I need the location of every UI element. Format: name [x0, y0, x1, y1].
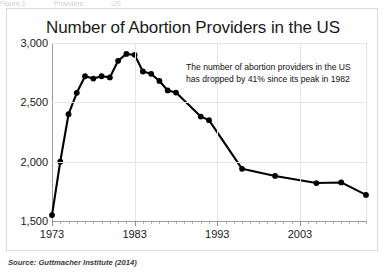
data-point-marker: [82, 73, 88, 79]
x-axis-minor-tick: [143, 221, 144, 224]
cropped-text-0: Figure 1: [0, 0, 26, 7]
gridline-vertical: [135, 43, 136, 221]
x-axis-tick-label: 2003: [288, 228, 312, 240]
data-point-marker: [115, 58, 121, 64]
x-axis-major-tick: [300, 221, 301, 226]
x-axis-minor-tick: [316, 221, 317, 224]
x-axis-minor-tick: [176, 221, 177, 224]
y-axis-tick-label: 2,500: [20, 96, 48, 108]
data-point-marker: [338, 180, 344, 186]
x-axis-minor-tick: [102, 221, 103, 224]
x-axis-minor-tick: [168, 221, 169, 224]
x-axis-minor-tick: [184, 221, 185, 224]
x-axis-minor-tick: [308, 221, 309, 224]
data-point-marker: [107, 75, 113, 81]
data-point-marker: [66, 111, 72, 117]
data-point-marker: [74, 90, 80, 96]
y-axis-tick-label: 1,500: [20, 215, 48, 227]
y-axis-tick-label: 3,000: [20, 37, 48, 49]
x-axis-minor-tick: [201, 221, 202, 224]
x-axis-minor-tick: [151, 221, 152, 224]
x-axis-minor-tick: [226, 221, 227, 224]
x-axis-minor-tick: [85, 221, 86, 224]
gridline-horizontal: [52, 102, 366, 103]
data-point-marker: [272, 173, 278, 179]
data-point-marker: [314, 180, 320, 186]
chart-figure: Figure 1 Providers US Number of Abortion…: [0, 0, 384, 280]
x-axis-tick-label: 1983: [122, 228, 146, 240]
x-axis-minor-tick: [69, 221, 70, 224]
x-axis-tick-label: 1993: [205, 228, 229, 240]
chart-annotation: The number of abortion providers in the …: [186, 62, 381, 85]
x-axis-minor-tick: [283, 221, 284, 224]
x-axis-minor-tick: [358, 221, 359, 224]
data-point-marker: [99, 73, 105, 79]
x-axis-minor-tick: [333, 221, 334, 224]
x-axis-minor-tick: [192, 221, 193, 224]
data-point-marker: [140, 69, 146, 75]
x-axis-major-tick: [217, 221, 218, 226]
x-axis-minor-tick: [234, 221, 235, 224]
annotation-line-1: The number of abortion providers in the …: [186, 62, 381, 74]
x-axis-minor-tick: [341, 221, 342, 224]
y-axis-tick-label: 2,000: [20, 156, 48, 168]
data-point-marker: [148, 71, 154, 77]
x-axis-minor-tick: [110, 221, 111, 224]
x-axis-tick-label: 1973: [40, 228, 64, 240]
data-point-marker: [157, 78, 163, 84]
data-point-marker: [198, 114, 204, 120]
data-point-marker: [123, 51, 129, 57]
gridline-horizontal: [52, 43, 366, 44]
x-axis-labels: 1973198319932003: [52, 228, 366, 244]
x-axis-minor-tick: [77, 221, 78, 224]
source-note: Source: Guttmacher Institute (2014): [8, 258, 137, 267]
gridline-horizontal: [52, 162, 366, 163]
x-axis-minor-tick: [209, 221, 210, 224]
x-axis-minor-tick: [349, 221, 350, 224]
data-point-marker: [206, 117, 212, 123]
data-point-marker: [90, 76, 96, 82]
x-axis-minor-tick: [118, 221, 119, 224]
x-axis-minor-tick: [366, 221, 367, 224]
x-axis-minor-tick: [126, 221, 127, 224]
data-point-marker: [173, 90, 179, 96]
x-axis-minor-tick: [250, 221, 251, 224]
data-point-marker: [165, 88, 171, 94]
cropped-text-1: Providers: [54, 0, 84, 7]
chart-title: Number of Abortion Providers in the US: [7, 18, 379, 38]
x-axis-minor-tick: [267, 221, 268, 224]
y-axis-labels: 3,0002,5002,0001,500: [0, 43, 48, 221]
x-axis-minor-tick: [292, 221, 293, 224]
x-axis-minor-tick: [242, 221, 243, 224]
x-axis-minor-tick: [259, 221, 260, 224]
x-axis-major-tick: [52, 221, 53, 226]
x-axis-minor-tick: [275, 221, 276, 224]
x-axis-minor-tick: [159, 221, 160, 224]
annotation-line-2: has dropped by 41% since its peak in 198…: [186, 74, 381, 86]
x-axis-major-tick: [135, 221, 136, 226]
data-point-marker: [363, 192, 369, 198]
cropped-text-2: US: [111, 0, 121, 7]
cropped-header-text: Figure 1 Providers US: [0, 0, 384, 7]
x-axis-minor-tick: [60, 221, 61, 224]
x-axis-minor-tick: [325, 221, 326, 224]
x-axis-minor-tick: [93, 221, 94, 224]
data-point-marker: [49, 212, 55, 218]
data-point-marker: [239, 166, 245, 172]
